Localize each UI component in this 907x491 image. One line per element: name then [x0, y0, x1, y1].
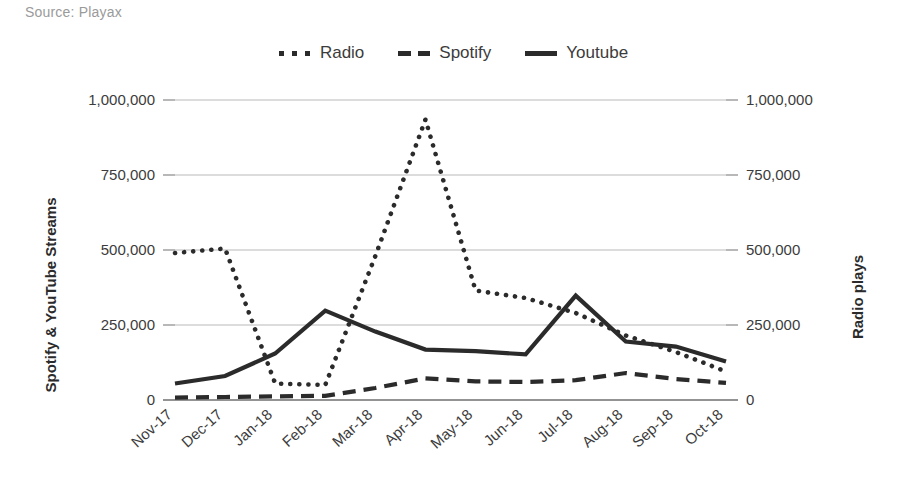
data-series: [175, 120, 726, 398]
x-axis-category-label: Nov-17: [128, 406, 175, 451]
x-axis-category-label: Apr-18: [381, 406, 426, 449]
x-axis-category-label: Sep-18: [629, 406, 676, 451]
right-axis-tick-label: 1,000,000: [746, 91, 813, 108]
left-axis-tick-label: 250,000: [101, 316, 155, 333]
axis-tickmarks: [163, 100, 738, 325]
gridlines: [163, 100, 738, 400]
right-axis-tick-label: 250,000: [746, 316, 800, 333]
x-axis-category-label: Jun-18: [480, 406, 525, 449]
right-axis-tick-label: 500,000: [746, 241, 800, 258]
series-line-spotify: [175, 373, 726, 398]
x-axis-category-label: Oct-18: [681, 406, 726, 449]
x-axis-category-label: Aug-18: [579, 406, 626, 451]
right-axis-tick-labels: 0250,000500,000750,0001,000,000: [746, 91, 813, 408]
x-axis-category-label: Dec-17: [178, 406, 225, 451]
left-axis-title: Spotify & YouTube Streams: [42, 197, 59, 392]
x-axis-category-label: Feb-18: [279, 406, 326, 450]
left-axis-tick-label: 500,000: [101, 241, 155, 258]
right-axis-tick-label: 750,000: [746, 166, 800, 183]
line-chart: 0250,000500,000750,0001,000,000 0250,000…: [0, 0, 907, 491]
left-axis-tick-label: 0: [147, 391, 155, 408]
chart-canvas: 0250,000500,000750,0001,000,000 0250,000…: [0, 0, 907, 491]
x-axis-category-label: Jan-18: [230, 406, 275, 449]
left-axis-tick-label: 1,000,000: [88, 91, 155, 108]
right-axis-tick-label: 0: [746, 391, 754, 408]
left-axis-tick-labels: 0250,000500,000750,0001,000,000: [88, 91, 155, 408]
left-axis-tick-label: 750,000: [101, 166, 155, 183]
x-axis-category-labels: Nov-17Dec-17Jan-18Feb-18Mar-18Apr-18May-…: [128, 406, 726, 452]
x-axis-category-label: Jul-18: [534, 406, 576, 446]
x-axis-category-label: Mar-18: [329, 406, 376, 450]
x-axis-category-label: May-18: [427, 406, 476, 452]
right-axis-title: Radio plays: [849, 255, 866, 339]
